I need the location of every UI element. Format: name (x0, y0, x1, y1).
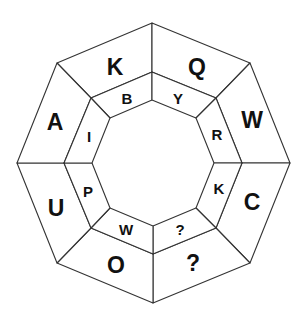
middle-letter-right-lower: K (214, 181, 225, 196)
outer-letter-right-lower: C (244, 191, 261, 214)
middle-letter-left-upper: I (87, 129, 91, 144)
middle-letter-top-left: B (122, 91, 133, 106)
middle-letter-left-lower: P (83, 184, 93, 199)
outer-letter-bottom-left: O (107, 254, 125, 277)
octagon-frame (0, 0, 308, 321)
middle-letter-bottom-right: ? (175, 222, 184, 237)
outer-letter-top-right: Q (188, 56, 206, 79)
outer-letter-left-lower: U (48, 197, 65, 220)
outer-letter-right-upper: W (241, 109, 263, 132)
middle-letter-top-right: Y (173, 91, 183, 106)
outer-letter-left-upper: A (47, 111, 64, 134)
middle-letter-right-upper: R (212, 127, 223, 142)
outer-letter-bottom-right: ? (186, 252, 200, 275)
outer-letter-top-left: K (107, 56, 124, 79)
octagon-puzzle: K Q W C ? O U A B Y R K ? W P I (0, 0, 308, 321)
middle-letter-bottom-left: W (119, 222, 133, 237)
